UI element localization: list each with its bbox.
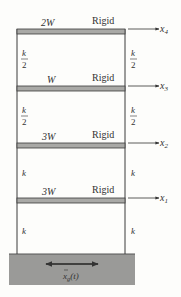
rigid-label-floor-1: Rigid <box>92 184 114 195</box>
svg-text:k: k <box>131 48 136 58</box>
svg-text:2: 2 <box>131 60 136 70</box>
rigid-label-floor-2: Rigid <box>92 129 114 140</box>
svg-text:k: k <box>22 48 27 58</box>
svg-text:2: 2 <box>22 60 27 70</box>
slab-floor-4 <box>17 29 125 34</box>
stiffness-right-story-4: k 2 <box>130 48 137 70</box>
weight-floor-4: 2W <box>41 17 56 28</box>
svg-text:k: k <box>131 105 136 115</box>
svg-text:k: k <box>22 105 27 115</box>
ground-excitation-label: xg(t) <box>62 271 79 282</box>
svg-text:x3: x3 <box>159 80 168 93</box>
svg-text:x1: x1 <box>159 192 168 205</box>
weight-floor-3: W <box>47 74 57 85</box>
stiffness-right-story-1: k <box>131 226 136 236</box>
stiffness-left-story-1: k <box>22 226 27 236</box>
stiffness-right-story-3: k 2 <box>130 105 137 127</box>
slab-floor-3 <box>17 86 125 91</box>
weight-floor-1: 3W <box>41 186 57 197</box>
rigid-label-floor-3: Rigid <box>92 72 114 83</box>
svg-text:x4: x4 <box>159 23 168 36</box>
shear-building-diagram: 2W Rigid W Rigid 3W Rigid 3W Rigid x4 x3… <box>0 0 181 297</box>
stiffness-left-story-3: k 2 <box>21 105 28 127</box>
stiffness-left-story-2: k <box>22 168 27 178</box>
svg-text:2: 2 <box>131 117 136 127</box>
stiffness-right-story-2: k <box>131 168 136 178</box>
svg-text:2: 2 <box>22 117 27 127</box>
svg-text:x2: x2 <box>159 137 168 150</box>
weight-floor-2: 3W <box>41 131 57 142</box>
rigid-label-floor-4: Rigid <box>92 15 114 26</box>
stiffness-left-story-4: k 2 <box>21 48 28 70</box>
slab-floor-1 <box>17 198 125 203</box>
dof-arrow-x3: x3 <box>128 80 168 93</box>
dof-arrow-x1: x1 <box>128 192 168 205</box>
dof-arrow-x2: x2 <box>128 137 168 150</box>
slab-floor-2 <box>17 143 125 148</box>
dof-arrow-x4: x4 <box>128 23 168 36</box>
